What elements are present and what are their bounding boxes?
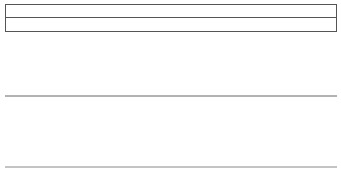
sector-row-1 [5, 4, 337, 18]
cycle-chart [0, 32, 341, 172]
sector-table [5, 4, 337, 32]
sector-row-2 [5, 18, 337, 32]
